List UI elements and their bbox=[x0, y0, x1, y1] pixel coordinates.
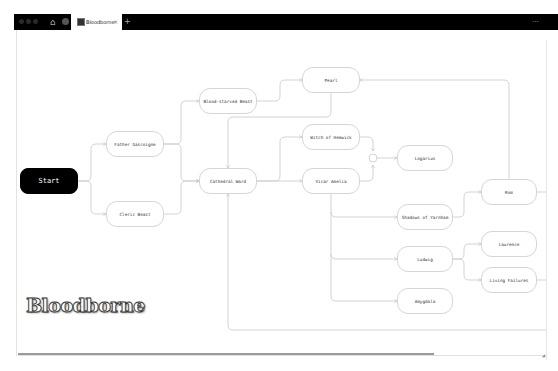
node-cathedral-ward[interactable]: Cathedral Ward bbox=[199, 168, 257, 194]
node-amygdala[interactable]: Amygdala bbox=[397, 288, 453, 314]
resize-corner-icon[interactable]: ◢ bbox=[542, 353, 545, 358]
node-blood-starved-beast[interactable]: Blood-starved Beast bbox=[199, 88, 257, 114]
node-start[interactable]: Start bbox=[20, 168, 78, 194]
node-living-failures[interactable]: Living Failures bbox=[481, 267, 537, 293]
node-rom[interactable]: Rom bbox=[481, 179, 537, 205]
node-ludwig[interactable]: Ludwig bbox=[397, 246, 453, 272]
node-pearl[interactable]: Pearl bbox=[302, 67, 360, 93]
node-witch-of-hemwick[interactable]: Witch of Hemwick bbox=[302, 124, 360, 150]
node-father-gascoigne[interactable]: Father Gascoigne bbox=[106, 131, 164, 157]
node-laurence[interactable]: Laurence bbox=[481, 231, 537, 257]
node-vicar-amelia[interactable]: Vicar Amelia bbox=[302, 168, 360, 194]
horizontal-scrollbar-thumb[interactable] bbox=[18, 353, 434, 355]
node-shadows-of-yarnham[interactable]: Shadows of Yarnham bbox=[397, 204, 453, 230]
node-logarius[interactable]: Logarius bbox=[397, 145, 453, 171]
node-cleric-beast[interactable]: Cleric Beast bbox=[106, 201, 164, 227]
horizontal-scroll-track[interactable] bbox=[18, 355, 546, 356]
bloodborne-logo: Bloodborne bbox=[26, 294, 145, 316]
